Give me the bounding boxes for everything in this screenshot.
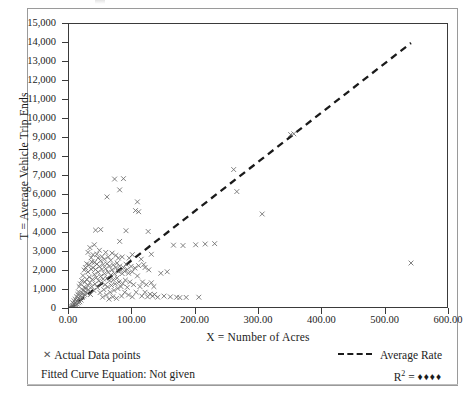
legend-label-actual-data-points: Actual Data points	[54, 349, 140, 361]
legend-entry-average-rate: Average Rate	[338, 346, 442, 364]
x-axis-tick-mark	[68, 308, 69, 314]
y-axis-title: T = Average Vehicle Trip Ends	[18, 21, 30, 311]
legend-entry-actual-data-points: ✕ Actual Data points	[41, 346, 140, 364]
x-axis-tick-mark	[448, 308, 449, 314]
x-axis-tick-label: 500.00	[350, 314, 420, 325]
x-axis-tick-mark	[258, 308, 259, 314]
x-axis-tick-mark	[131, 308, 132, 314]
x-axis-tick-label: 300.00	[223, 314, 293, 325]
x-axis-tick-label: 100.00	[96, 314, 166, 325]
x-axis-tick-label: 200.00	[160, 314, 230, 325]
legend-row-data-points: ✕ Actual Data points Average Rate	[27, 346, 458, 364]
dashed-line-icon	[338, 353, 372, 355]
x-axis-tick-mark	[195, 308, 196, 314]
legend-separator	[27, 384, 458, 385]
x-marker-icon: ✕	[41, 346, 52, 364]
legend-row-equation: Fitted Curve Equation: Not given R2 = ♦♦…	[27, 365, 458, 383]
x-axis-tick-mark	[385, 308, 386, 314]
r-squared-exponent: 2	[401, 369, 405, 378]
r-squared-equals: =	[408, 371, 415, 383]
r-squared-value: ♦♦♦♦	[418, 371, 442, 382]
x-axis-tick-mark	[321, 308, 322, 314]
x-axis-tick-label: 0.00	[33, 314, 103, 325]
legend-fitted-curve-equation: Fitted Curve Equation: Not given	[41, 365, 195, 383]
legend-label-average-rate: Average Rate	[380, 349, 442, 361]
x-axis-tick-label: 400.00	[286, 314, 356, 325]
figure-container: 01,0002,0003,0004,0005,0006,0007,0008,00…	[0, 0, 471, 396]
x-axis-tick-label: 600.00	[413, 314, 471, 325]
legend-r-squared: R2 = ♦♦♦♦	[394, 365, 442, 386]
legend: ✕ Actual Data points Average Rate Fitted…	[27, 346, 458, 386]
x-axis-title: X = Number of Acres	[68, 331, 448, 343]
